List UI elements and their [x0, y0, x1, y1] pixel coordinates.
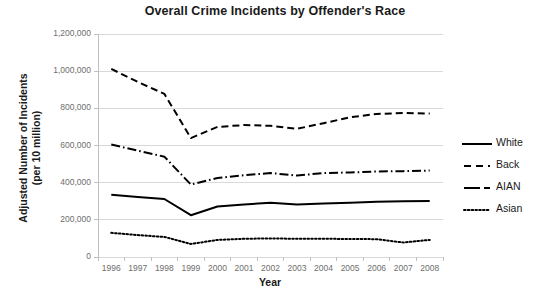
legend-label: Back — [496, 158, 519, 170]
data-series-group — [111, 69, 429, 244]
x-tick-label: 2008 — [413, 263, 447, 273]
chart-legend: WhiteBackAIANAsian — [462, 131, 548, 219]
legend-swatch-solid — [462, 136, 492, 148]
y-tick-label: 1,200,000 — [36, 28, 91, 38]
legend-item-asian: Asian — [462, 197, 548, 219]
legend-swatch-dashed — [462, 158, 492, 170]
x-axis-ticks — [98, 257, 443, 261]
legend-swatch-dotted — [462, 202, 492, 214]
legend-swatch-dashdot — [462, 180, 492, 192]
legend-item-back: Back — [462, 153, 548, 175]
y-tick-label: 800,000 — [36, 102, 91, 112]
y-tick-label: 200,000 — [36, 214, 91, 224]
legend-item-aian: AIAN — [462, 175, 548, 197]
legend-label: AIAN — [496, 180, 521, 192]
series-line-asian — [111, 233, 429, 244]
chart-container: Overall Crime Incidents by Offender's Ra… — [0, 0, 550, 293]
y-tick-label: 600,000 — [36, 140, 91, 150]
series-line-white — [111, 195, 429, 215]
gridlines — [94, 34, 443, 257]
y-tick-label: 400,000 — [36, 177, 91, 187]
series-line-aian — [111, 145, 429, 185]
y-tick-label: 0 — [36, 251, 91, 261]
y-tick-label: 1,000,000 — [36, 65, 91, 75]
legend-label: Asian — [496, 202, 522, 214]
legend-label: White — [496, 136, 523, 148]
legend-item-white: White — [462, 131, 548, 153]
series-line-back — [111, 69, 429, 138]
